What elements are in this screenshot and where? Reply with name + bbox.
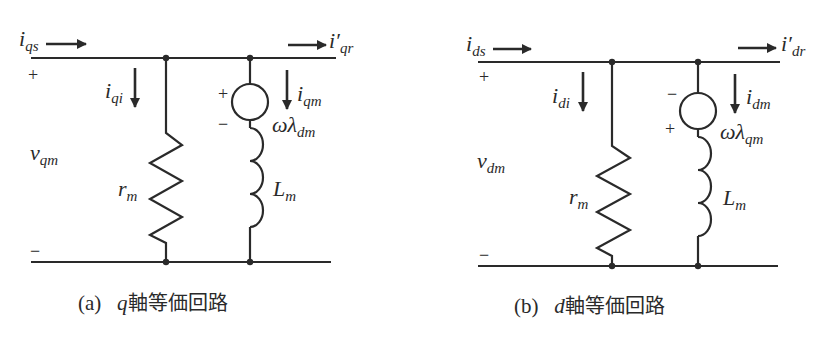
node-dot [163,55,169,61]
terminal-minus: − [30,242,40,260]
label-idi: idi [552,85,570,111]
node-dot [695,263,701,269]
panel-b-circuit [478,48,780,266]
voltage-source-icon [232,84,268,120]
node-dot [609,263,615,269]
terminal-plus: + [479,68,489,86]
source-plus: + [218,85,228,103]
node-dot [247,55,253,61]
panel-a-circuit [31,44,336,262]
resistor-rm [597,62,630,266]
terminal-plus: + [28,66,38,84]
voltage-source-icon [680,93,716,129]
terminal-minus: − [479,246,489,264]
label-idr: i′dr [781,33,805,59]
source-plus: + [665,120,675,138]
resistor-rm [150,58,182,262]
label-speed-voltage: ωλdm [272,114,315,140]
label-lm: Lm [723,187,746,213]
label-rm: rm [569,186,588,212]
label-ids: ids [466,33,485,59]
node-dot [247,259,253,265]
label-idm: idm [746,86,770,112]
caption-b: (b) d軸等価回路 [514,296,665,317]
label-rm: rm [118,178,137,204]
label-speed-voltage: ωλqm [720,121,763,147]
node-dot [163,259,169,265]
circuit-diagram [0,0,829,339]
source-minus: − [218,115,228,133]
inductor-lm [698,137,711,236]
node-dot [695,59,701,65]
source-minus: − [667,85,677,103]
label-iqr: i′qr [329,30,353,56]
label-iqi: iqi [105,80,123,106]
label-lm: Lm [273,178,296,204]
label-vdm: vdm [477,150,505,176]
node-dot [609,59,615,65]
label-iqs: iqs [19,28,38,54]
inductor-lm [250,128,263,227]
caption-a: (a) q軸等価回路 [78,293,228,314]
label-vqm: vqm [30,142,58,168]
label-iqm: iqm [297,83,321,109]
